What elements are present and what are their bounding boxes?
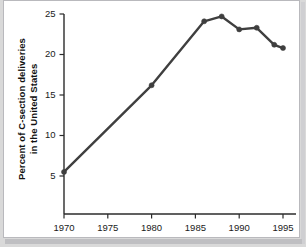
data-point-marker <box>202 19 207 24</box>
x-axis-tick-label: 1985 <box>173 222 217 233</box>
x-axis-tick-label: 1995 <box>261 222 305 233</box>
line-chart: Percent of C-section deliveries in the U… <box>0 0 306 247</box>
chart-plot-svg <box>0 0 306 247</box>
x-axis-tick-label: 1975 <box>86 222 130 233</box>
data-point-marker <box>281 46 286 51</box>
figure-container: Percent of C-section deliveries in the U… <box>0 0 306 247</box>
data-line <box>64 16 283 172</box>
x-axis-tick-label: 1970 <box>42 222 86 233</box>
y-axis-tick-label: 25 <box>22 8 56 19</box>
y-axis-tick-label: 15 <box>22 89 56 100</box>
x-axis-tick-label: 1980 <box>130 222 174 233</box>
data-point-marker <box>254 25 259 30</box>
y-axis-tick-label: 20 <box>22 48 56 59</box>
data-series-group <box>62 14 286 175</box>
x-axis-tick-label: 1990 <box>217 222 261 233</box>
data-point-marker <box>149 83 154 88</box>
data-point-marker <box>272 42 277 47</box>
data-point-marker <box>62 169 67 174</box>
axes-group <box>60 14 297 219</box>
data-point-marker <box>237 27 242 32</box>
y-axis-tick-label: 10 <box>22 129 56 140</box>
y-axis-tick-label: 5 <box>22 170 56 181</box>
data-point-marker <box>219 14 224 19</box>
